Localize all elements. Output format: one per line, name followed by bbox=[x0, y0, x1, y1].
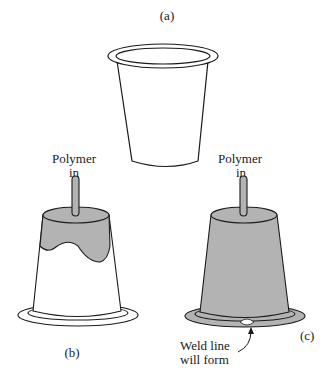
mold-partial-fill-icon bbox=[18, 176, 138, 326]
panel-a: (a) bbox=[108, 8, 218, 167]
panel-b-label: (b) bbox=[64, 345, 79, 360]
weld-arrow-icon bbox=[238, 331, 251, 352]
panel-c: Polymer in Weld line will form (c) bbox=[180, 151, 314, 367]
panel-c-label: (c) bbox=[300, 328, 314, 343]
panel-b-inlet-label-line1: Polymer bbox=[52, 151, 97, 166]
weld-line-annotation-line1: Weld line bbox=[180, 338, 230, 353]
weld-line-annotation-line2: will form bbox=[180, 352, 229, 367]
cup-icon bbox=[108, 44, 218, 167]
panel-a-label: (a) bbox=[160, 8, 174, 23]
panel-c-inlet-label-line1: Polymer bbox=[218, 151, 263, 166]
arrow-head-icon bbox=[248, 327, 254, 334]
injection-molding-diagram: (a) Polymer in (b) Polymer in bbox=[0, 0, 327, 383]
mold-full-fill-icon bbox=[185, 176, 305, 327]
panel-b: Polymer in (b) bbox=[18, 151, 138, 360]
